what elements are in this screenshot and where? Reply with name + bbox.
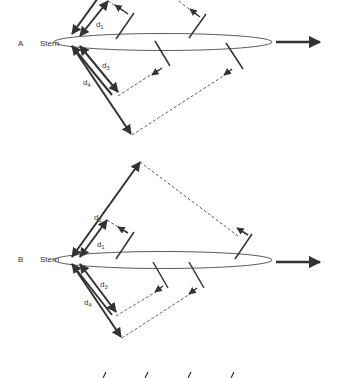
label-d1-a: d1 — [96, 20, 104, 30]
oar-4-b — [189, 262, 204, 288]
panel-b-stern-label: Stern — [40, 255, 59, 264]
d4-arrow-b — [72, 264, 121, 337]
oar-1 — [116, 13, 134, 39]
label-d3-b: d3 — [100, 280, 108, 290]
panel-b: B Stern d2 d1 d3 d4 — [18, 162, 320, 338]
oar-4 — [226, 43, 243, 69]
panel-b-label: B — [18, 255, 23, 264]
hull-ellipse — [54, 34, 272, 51]
hull-ellipse-b — [54, 252, 272, 269]
label-d4-a: d4 — [83, 78, 91, 88]
label-d3-a: d3 — [102, 61, 110, 71]
label-d1-b: d1 — [97, 240, 105, 250]
oar-1-b — [116, 232, 134, 259]
panel-a: A Stern d1 d3 d4 — [18, 0, 320, 135]
panel-c-partial — [103, 372, 234, 378]
oar-2-b — [235, 234, 252, 259]
label-d2-b: d2 — [94, 213, 102, 223]
oar-3-b — [153, 262, 168, 288]
wake-diagram: A Stern d1 d3 d4 B Stern — [0, 0, 341, 378]
d2-arrow — [72, 162, 140, 257]
oar-3 — [155, 41, 170, 66]
label-d4-b: d4 — [84, 298, 92, 308]
d4-arrow — [72, 46, 131, 134]
panel-a-label: A — [18, 39, 24, 48]
